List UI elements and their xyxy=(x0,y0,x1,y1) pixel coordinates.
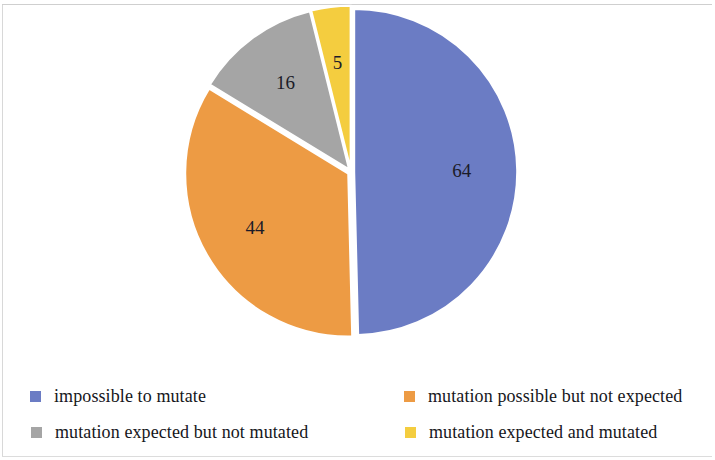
legend-label: mutation possible but not expected xyxy=(428,386,682,407)
pie-chart-figure: 6444165 impossible to mutate mutation po… xyxy=(0,0,715,460)
pie-svg: 6444165 xyxy=(0,0,715,350)
legend-swatch-icon xyxy=(30,391,41,402)
pie-data-label: 64 xyxy=(452,160,472,181)
legend-label: mutation expected but not mutated xyxy=(55,422,308,443)
legend-row: impossible to mutate mutation possible b… xyxy=(0,378,715,414)
legend-item-mutation-possible-but-not-expected[interactable]: mutation possible but not expected xyxy=(352,378,715,414)
legend-item-impossible-to-mutate[interactable]: impossible to mutate xyxy=(0,378,352,414)
pie-data-label: 16 xyxy=(276,72,295,93)
pie-plot-area: 6444165 xyxy=(0,0,715,350)
legend-label: mutation expected and mutated xyxy=(429,422,657,443)
legend-row: mutation expected but not mutated mutati… xyxy=(0,414,715,450)
legend-swatch-icon xyxy=(404,391,415,402)
pie-data-label: 5 xyxy=(333,52,343,73)
legend-swatch-icon xyxy=(405,427,416,438)
legend-label: impossible to mutate xyxy=(54,386,206,407)
legend-item-mutation-expected-and-mutated[interactable]: mutation expected and mutated xyxy=(352,414,715,450)
pie-data-label: 44 xyxy=(246,217,266,238)
legend-item-mutation-expected-but-not-mutated[interactable]: mutation expected but not mutated xyxy=(0,414,352,450)
legend-swatch-icon xyxy=(31,427,42,438)
chart-legend: impossible to mutate mutation possible b… xyxy=(0,378,715,458)
pie-slice[interactable] xyxy=(354,9,517,335)
